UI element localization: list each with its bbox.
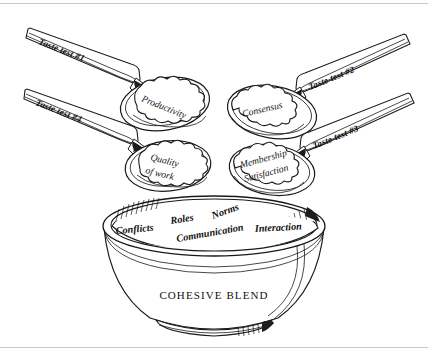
cohesive-blend-label: COHESIVE BLEND: [159, 289, 268, 301]
spoon-top-left: Productivity Taste test #1: [26, 28, 214, 137]
cohesive-blend-illustration: Productivity Taste test #1 Consensus Tas…: [0, 0, 428, 359]
figure-canvas: Productivity Taste test #1 Consensus Tas…: [0, 0, 428, 359]
